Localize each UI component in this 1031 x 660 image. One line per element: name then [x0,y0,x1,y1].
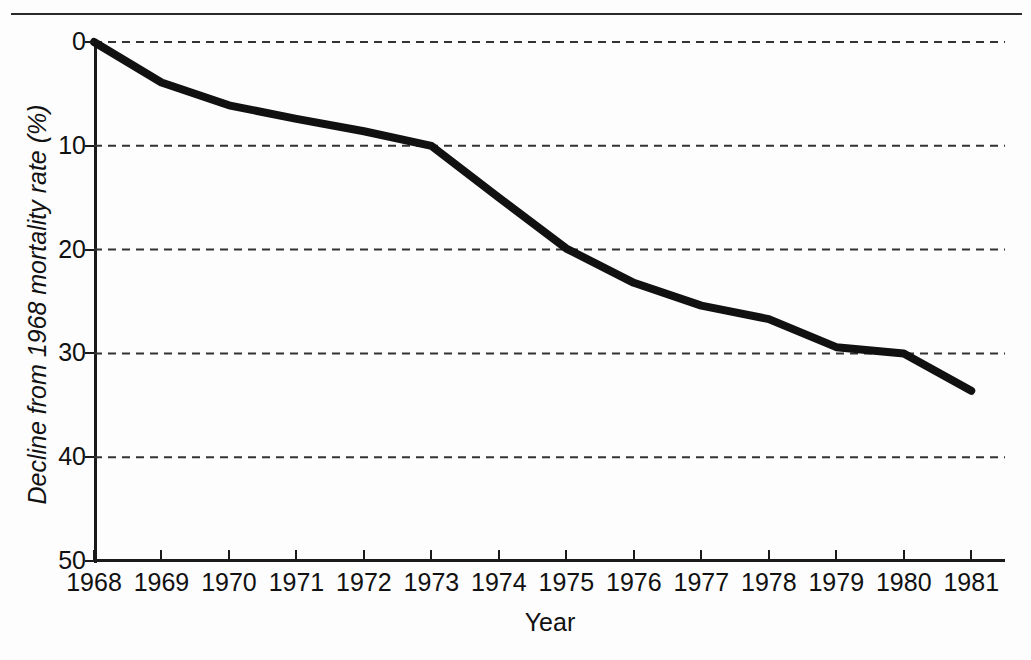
x-axis-tick [970,550,972,561]
y-axis-tick [85,456,94,458]
y-axis-tick [85,249,94,251]
x-axis-title: Year [0,608,1031,637]
x-axis-tick [835,550,837,561]
x-axis-tick [633,550,635,561]
x-axis-tick [363,550,365,561]
plot-area [94,42,1005,561]
x-axis-tick [160,550,162,561]
x-axis-tick-label: 1981 [926,568,1016,596]
x-axis-tick [228,550,230,561]
x-axis-tick [768,550,770,561]
x-axis-tick [700,550,702,561]
top-divider-rule [11,13,1022,15]
y-axis-tick [85,145,94,147]
x-axis-tick [93,550,95,561]
x-axis-tick [498,550,500,561]
x-axis-tick [295,550,297,561]
chart-figure: 01020304050 Decline from 1968 mortality … [0,0,1031,660]
x-axis-tick [903,550,905,561]
y-axis-tick [85,352,94,354]
data-line [94,42,971,391]
x-axis-tick [430,550,432,561]
y-axis-title: Decline from 1968 mortality rate (%) [23,25,52,585]
data-line-series [94,42,1005,561]
x-axis-tick [565,550,567,561]
y-axis-tick [85,41,94,43]
